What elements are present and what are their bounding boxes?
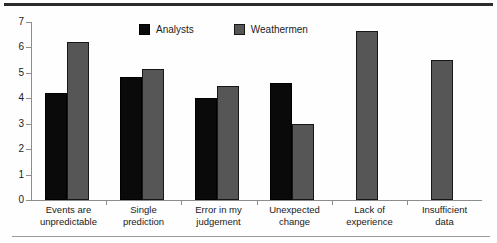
legend-item-analysts: Analysts: [139, 24, 194, 35]
y-axis-label-wrap: 5: [0, 68, 24, 78]
black-square-swatch-icon: [139, 24, 150, 35]
y-axis-label-wrap: 3: [0, 119, 24, 129]
legend-item-weathermen: Weathermen: [234, 24, 308, 35]
y-axis-tick-label: 1: [2, 170, 24, 180]
chart-screenshot: 01234567 Events areunpredictableSinglepr…: [0, 0, 497, 243]
bar-analysts-4: [270, 83, 292, 200]
legend-label-analysts: Analysts: [156, 25, 194, 35]
bar-weathermen-6: [431, 60, 453, 200]
legend-label-weathermen: Weathermen: [251, 25, 308, 35]
x-axis-category-label: Unexpectedchange: [257, 204, 332, 227]
y-axis-tick: [26, 124, 31, 125]
bar-analysts-2: [120, 77, 142, 200]
x-axis-category-label-line: Unexpected: [257, 204, 332, 216]
x-axis-category-label-line: change: [257, 216, 332, 228]
y-axis-tick: [26, 73, 31, 74]
x-axis-category-label: Singleprediction: [106, 204, 181, 227]
x-axis-category-label-line: Single: [106, 204, 181, 216]
y-axis-label-wrap: 1: [0, 170, 24, 180]
x-axis-category-label-line: Lack of: [332, 204, 407, 216]
bar-weathermen-4: [292, 124, 314, 200]
bar-analysts-1: [45, 93, 67, 200]
x-axis-category-label-line: Error in my: [181, 204, 256, 216]
x-axis-category-label-line: data: [407, 216, 482, 228]
x-axis-category-label: Events areunpredictable: [31, 204, 106, 227]
x-axis-category-label-line: unpredictable: [31, 216, 106, 228]
y-axis-tick-label: 6: [2, 42, 24, 52]
y-axis-tick-label: 0: [2, 195, 24, 205]
bar-weathermen-5: [356, 31, 378, 200]
x-axis-category-label-line: Events are: [31, 204, 106, 216]
y-axis-tick-label: 7: [2, 17, 24, 27]
y-axis-tick: [26, 200, 31, 201]
y-axis-tick: [26, 98, 31, 99]
y-axis-tick: [26, 22, 31, 23]
x-axis-category-label-line: prediction: [106, 216, 181, 228]
x-axis-category-label: Lack ofexperience: [332, 204, 407, 227]
x-axis-category-label-line: judgement: [181, 216, 256, 228]
y-axis-tick-label: 3: [2, 119, 24, 129]
y-axis-tick: [26, 149, 31, 150]
x-axis-category-label-line: experience: [332, 216, 407, 228]
y-axis-tick: [26, 175, 31, 176]
bar-chart-plot-area: 01234567 Events areunpredictableSinglepr…: [0, 0, 497, 243]
bar-weathermen-3: [217, 86, 239, 200]
y-axis-line: [31, 22, 32, 201]
y-axis-tick-label: 5: [2, 68, 24, 78]
y-axis-tick-label: 2: [2, 144, 24, 154]
y-axis-tick-label: 4: [2, 93, 24, 103]
x-axis-category-label: Error in myjudgement: [181, 204, 256, 227]
y-axis-label-wrap: 4: [0, 93, 24, 103]
x-axis-category-label-line: Insufficient: [407, 204, 482, 216]
y-axis-label-wrap: 2: [0, 144, 24, 154]
x-axis-category-label: Insufficientdata: [407, 204, 482, 227]
y-axis-tick: [26, 47, 31, 48]
y-axis-label-wrap: 0: [0, 195, 24, 205]
bar-weathermen-1: [67, 42, 89, 200]
y-axis-label-wrap: 6: [0, 42, 24, 52]
bar-weathermen-2: [142, 69, 164, 200]
chart-legend: Analysts Weathermen: [139, 24, 308, 35]
bar-analysts-3: [195, 98, 217, 200]
gray-square-swatch-icon: [234, 24, 245, 35]
y-axis-label-wrap: 7: [0, 17, 24, 27]
